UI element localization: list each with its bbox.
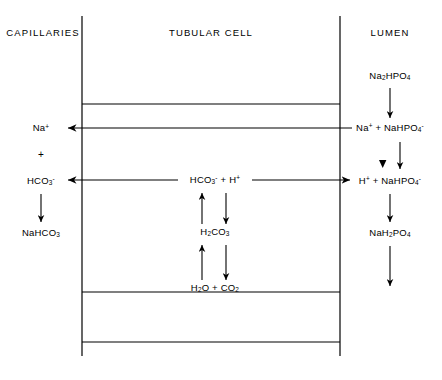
species-bicarbonate-plus-proton: HCO3- + H+ — [190, 175, 240, 186]
species-proton-plus-monosodium-phosphate: H+ + NaHPO4- — [359, 176, 421, 187]
species-sodium-plus-monosodium-phosphate: Na+ + NaHPO4- — [356, 123, 424, 134]
species-water-plus-carbon-dioxide: H2O + CO2 — [191, 283, 239, 294]
species-sodium-bicarbonate: NaHCO3 — [22, 228, 60, 239]
species-monosodium-dihydrogen-phosphate: NaH2PO4 — [369, 228, 410, 239]
species-plus-sign: + — [38, 150, 44, 160]
header-tubular-cell: TUBULAR CELL — [169, 28, 253, 38]
diagram-lines-layer — [0, 0, 442, 380]
header-lumen: LUMEN — [371, 28, 410, 38]
species-sodium-ion: Na+ — [33, 123, 50, 133]
species-bicarbonate-ion: HCO3- — [27, 176, 55, 187]
species-carbonic-acid: H2CO3 — [200, 227, 229, 238]
header-capillaries: CAPILLARIES — [6, 28, 79, 38]
species-disodium-phosphate: Na2HPO4 — [369, 71, 410, 82]
diagram-canvas: CAPILLARIES TUBULAR CELL LUMEN Na+ + HCO… — [0, 0, 442, 380]
sodium-exchange-arrowhead — [379, 160, 386, 168]
